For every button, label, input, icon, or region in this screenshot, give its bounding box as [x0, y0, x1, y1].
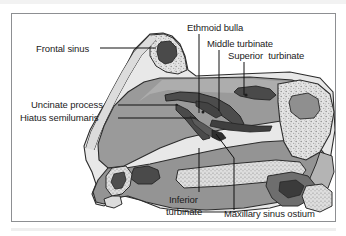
label-hiatus-semilumaris: Hiatus semilumaris	[20, 112, 98, 123]
label-middle-turbinate: Middle turbinate	[207, 38, 273, 49]
label-ethmoid-bulla: Ethmoid bulla	[187, 22, 243, 33]
ethmoid-cell-dot-a	[202, 111, 205, 114]
columella-notch	[104, 196, 122, 208]
ethmoid-cell-dot-b	[244, 93, 247, 96]
label-uncinate-process: Uncinate process	[31, 99, 103, 110]
label-inferior-turbinate-line1: Inferior	[169, 194, 198, 205]
label-maxillary-sinus-ostium: Maxillary sinus ostium	[224, 208, 315, 219]
label-superior-turbinate: Superior turbinate	[228, 50, 304, 61]
figure-page: Frontal sinus Ethmoid bulla Middle turbi…	[0, 0, 346, 236]
inferior-turbinate	[130, 166, 160, 184]
label-frontal-sinus: Frontal sinus	[36, 43, 89, 54]
label-inferior-turbinate-line2: turbinate	[166, 206, 202, 217]
